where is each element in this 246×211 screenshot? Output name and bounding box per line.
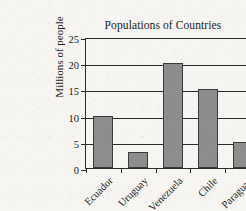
y-tick-mark (81, 91, 86, 92)
x-tick-mark (225, 168, 226, 173)
y-tick-label: 20 (69, 60, 80, 71)
y-tick-label: 0 (74, 165, 79, 176)
y-tick-mark (81, 65, 86, 66)
chart-title: Populations of Countries (40, 19, 246, 31)
plot-area: 0510152025 EcuadorUruguayVenezuelaChileP… (85, 38, 246, 169)
y-tick-mark (81, 39, 86, 40)
y-tick-label: 5 (74, 138, 79, 149)
y-tick-mark (81, 144, 86, 145)
bar (198, 89, 218, 168)
x-tick-label-text: Ecuador (64, 175, 116, 211)
bar (233, 142, 246, 168)
x-tick-label: Ecuador (64, 175, 116, 211)
bar-chart: Populations of Countries Millions of peo… (40, 16, 206, 195)
bar (163, 63, 183, 168)
y-tick-label: 25 (69, 34, 80, 45)
y-tick-mark (81, 118, 86, 119)
x-tick-mark (86, 168, 87, 173)
x-tick-mark (156, 168, 157, 173)
bar (128, 152, 148, 168)
y-tick-label: 15 (69, 86, 80, 97)
bar (93, 116, 113, 168)
y-axis-title: Millions of people (51, 0, 67, 116)
x-tick-mark (190, 168, 191, 173)
x-tick-mark (121, 168, 122, 173)
y-tick-label: 10 (69, 112, 80, 123)
